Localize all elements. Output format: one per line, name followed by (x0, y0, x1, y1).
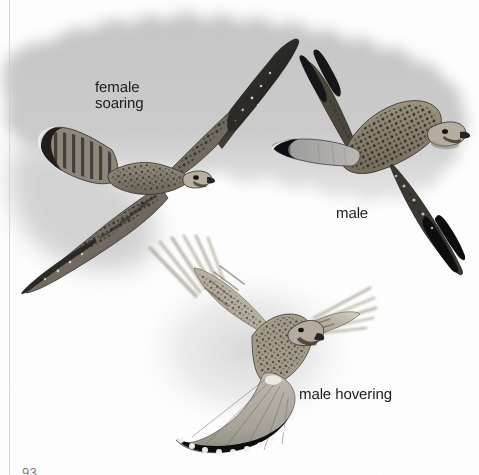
bird-eye (442, 129, 448, 134)
label-female-soaring-line2: soaring (95, 95, 144, 112)
page-folio-number: 93 (22, 466, 37, 475)
bird-soaring-icon (21, 39, 299, 294)
illustration-plate: femalesoaring male male hovering 93 (0, 0, 479, 475)
bird-hovering-icon (150, 236, 376, 455)
bird-eye (193, 175, 199, 180)
bird-artwork-layer (0, 0, 479, 475)
bird-eye (298, 328, 304, 333)
bird-gliding-icon (272, 50, 471, 275)
label-male: male (336, 206, 368, 221)
label-male-hovering: male hovering (299, 387, 392, 402)
bird-bill (460, 132, 470, 139)
bird-bill (207, 177, 215, 183)
label-female-soaring-line1: female (95, 79, 139, 96)
label-female-soaring: femalesoaring (95, 80, 144, 111)
